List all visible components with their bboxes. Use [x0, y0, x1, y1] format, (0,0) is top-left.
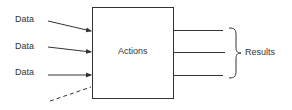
data-label-2: Data: [15, 42, 34, 51]
dashed-input-line: [50, 87, 91, 101]
input-arrow-1: [48, 21, 91, 31]
data-label-1: Data: [15, 15, 34, 24]
data-label-3: Data: [15, 68, 34, 77]
actions-label: Actions: [118, 47, 148, 56]
input-arrow-2: [48, 47, 91, 52]
results-label: Results: [245, 48, 275, 57]
results-brace: [229, 28, 241, 78]
